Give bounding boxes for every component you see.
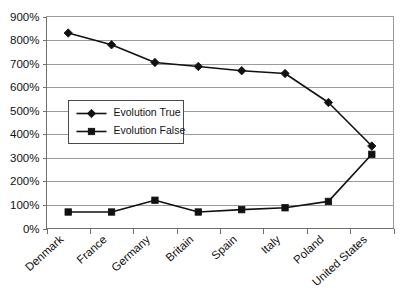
y-tick-label: 400% xyxy=(10,128,39,140)
data-point-marker xyxy=(88,128,94,134)
y-tick-label: 700% xyxy=(10,58,39,70)
y-tick-label: 100% xyxy=(10,199,39,211)
y-tick-label: 500% xyxy=(10,105,39,117)
data-point-marker xyxy=(152,197,158,203)
data-point-marker xyxy=(325,198,331,204)
chart-container: 0%100%200%300%400%500%600%700%800%900% D… xyxy=(0,0,408,291)
y-tick-label: 600% xyxy=(10,81,39,93)
data-point-marker xyxy=(195,209,201,215)
y-tick-label: 900% xyxy=(10,11,39,23)
chart-legend: Evolution TrueEvolution False xyxy=(69,101,186,144)
y-tick-label: 0% xyxy=(23,223,40,235)
y-tick-label: 200% xyxy=(10,175,39,187)
legend-label: Evolution True xyxy=(114,106,181,118)
y-tick-label: 300% xyxy=(10,152,39,164)
line-chart: 0%100%200%300%400%500%600%700%800%900% D… xyxy=(0,0,408,291)
data-point-marker xyxy=(108,209,114,215)
data-point-marker xyxy=(238,206,244,212)
legend-label: Evolution False xyxy=(114,124,186,136)
data-point-marker xyxy=(65,209,71,215)
data-point-marker xyxy=(282,205,288,211)
data-point-marker xyxy=(369,151,375,157)
y-tick-label: 800% xyxy=(10,34,39,46)
